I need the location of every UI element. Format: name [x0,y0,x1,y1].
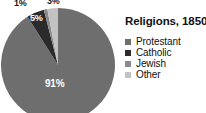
legend-item-label: Protestant [136,36,181,47]
legend-list: ProtestantCatholicJewishOther [125,36,205,80]
legend-item-jewish[interactable]: Jewish [125,58,205,69]
legend-item-label: Jewish [136,58,166,69]
legend-swatch-icon [125,39,131,45]
legend-item-protestant[interactable]: Protestant [125,36,205,47]
legend-swatch-icon [125,61,131,67]
legend-item-catholic[interactable]: Catholic [125,47,205,58]
pie-chart-figure: 91% 5% 1% 3% Religions, 1850 ProtestantC… [0,0,206,113]
pie-svg [0,0,118,113]
pie-label-jewish: 1% [14,0,27,8]
legend-item-other[interactable]: Other [125,69,205,80]
pie-plot-area: 91% 5% 1% 3% [0,0,118,113]
legend-swatch-icon [125,50,131,56]
legend-item-label: Catholic [136,47,171,58]
legend-item-label: Other [136,69,161,80]
legend-block: Religions, 1850 ProtestantCatholicJewish… [118,0,206,113]
chart-title: Religions, 1850 [125,15,206,27]
pie-slices [1,8,115,113]
pie-label-other: 3% [47,0,60,6]
pie-label-protestant: 91% [45,78,64,89]
pie-label-catholic: 5% [30,13,43,23]
legend-swatch-icon [125,72,131,78]
